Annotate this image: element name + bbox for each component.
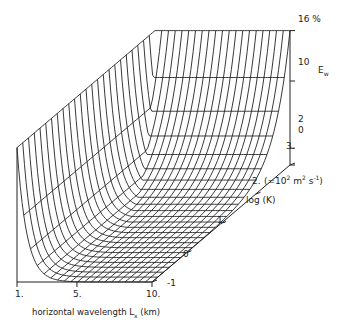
z-axis-label: Ew — [318, 66, 329, 77]
surface-mesh — [17, 31, 290, 282]
x-tick-1: 1. — [15, 290, 24, 299]
y-tick-m1: -1 — [167, 279, 176, 288]
y-tick-0: 0 — [183, 250, 189, 259]
y-tick-3: 3. — [286, 142, 295, 151]
z-tick-2: 2 — [298, 115, 304, 124]
x-tick-10: 10. — [146, 290, 160, 299]
y-tick-2: 2. — [252, 177, 261, 186]
z-tick-10: 10 — [298, 58, 309, 67]
x-axis-label: horizontal wavelength Lx (km) — [32, 308, 160, 319]
x-tick-5: 5. — [73, 290, 82, 299]
y-unit-note: (=102 m2 s-1) — [264, 175, 323, 186]
y-axis-label: log (K) — [246, 196, 276, 205]
z-tick-16: 16 % — [298, 15, 321, 24]
z-tick-0: 0 — [298, 126, 304, 135]
axes — [17, 31, 295, 287]
y-tick-1: 1. — [217, 216, 226, 225]
